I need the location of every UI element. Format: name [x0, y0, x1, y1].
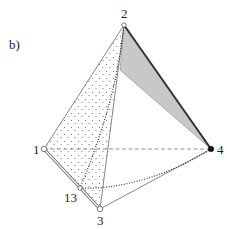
panel-label: b)	[9, 38, 20, 51]
vertex-1-marker	[41, 146, 47, 152]
vertex-label-4: 4	[217, 143, 224, 156]
vertex-label-1: 1	[33, 143, 40, 156]
vertex-label-2: 2	[121, 7, 128, 20]
vertex-2-marker	[122, 23, 126, 27]
edge-2-4-thick	[124, 25, 211, 149]
edge-3-4	[100, 149, 211, 209]
vertex-label-13: 13	[64, 191, 77, 204]
tetrahedron-diagram	[0, 0, 227, 229]
tetrahedron-figure: b) 2 1 4 13 3	[0, 0, 227, 229]
vertex-3-marker	[97, 206, 103, 212]
vertex-4-marker	[208, 146, 214, 152]
vertex-13-marker	[78, 186, 82, 190]
vertex-label-3: 3	[97, 214, 104, 227]
